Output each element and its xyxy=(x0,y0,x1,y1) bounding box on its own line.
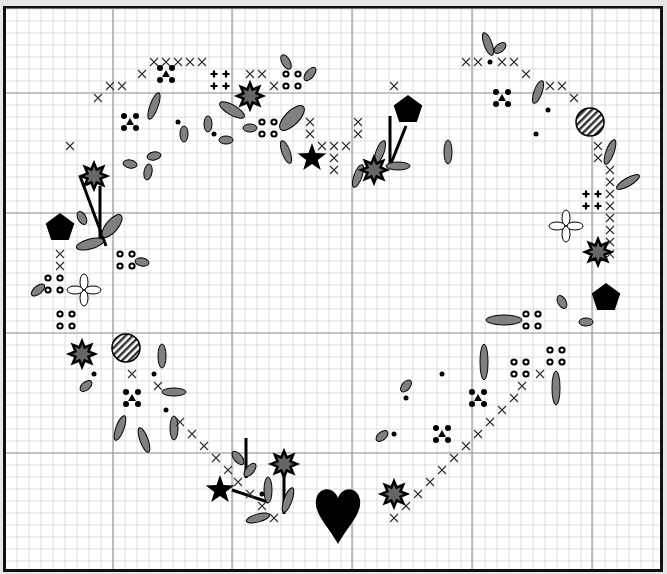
cross-stitch-icon xyxy=(518,382,526,390)
cross-stitch-icon xyxy=(438,466,446,474)
cross-stitch-icon xyxy=(306,118,314,126)
leaf-icon xyxy=(480,344,488,380)
leaf-icon xyxy=(162,388,186,396)
cross-stitch-icon xyxy=(390,82,398,90)
cross-stitch-icon xyxy=(198,58,206,66)
heart-icon xyxy=(316,489,360,544)
leaf-icon xyxy=(243,124,257,132)
dot-icon xyxy=(176,120,181,125)
dot-icon xyxy=(440,372,445,377)
cross-stitch-icon xyxy=(606,226,614,234)
cross-stitch-icon xyxy=(536,370,544,378)
leaf-icon xyxy=(302,65,318,82)
leaf-icon xyxy=(480,31,496,56)
cross-stitch-icon xyxy=(570,94,578,102)
cross-stitch-icon xyxy=(150,58,158,66)
cross-stitch-icon xyxy=(510,58,518,66)
dot-icon xyxy=(546,108,551,113)
leaf-icon xyxy=(98,211,125,240)
striped-circle-icon xyxy=(112,334,140,362)
leaf-icon xyxy=(444,140,452,164)
cross-stitch-icon xyxy=(258,502,266,510)
cross-stitch-icon xyxy=(462,58,470,66)
leaf-icon xyxy=(75,236,105,253)
leaf-icon xyxy=(204,116,212,132)
dot-icon xyxy=(534,132,539,137)
ring-cluster-icon xyxy=(57,311,74,328)
striped-circle-icon xyxy=(576,108,604,136)
cross-stitch-icon xyxy=(474,58,482,66)
burst-icon xyxy=(585,239,611,265)
dot-cluster-icon xyxy=(121,113,139,131)
cross-stitch-icon xyxy=(390,514,398,522)
cross-stitch-icon xyxy=(138,70,146,78)
ring-cluster-icon xyxy=(45,275,62,292)
cross-stitch-icon xyxy=(474,430,482,438)
cross-stitch-icon xyxy=(200,442,208,450)
cross-stitch-icon xyxy=(66,142,74,150)
stem-line xyxy=(390,126,406,166)
burst-icon xyxy=(381,481,407,507)
cross-stitch-icon xyxy=(522,70,530,78)
dot-icon xyxy=(404,396,409,401)
leaf-icon xyxy=(486,315,522,325)
leaf-icon xyxy=(143,163,154,180)
cross-stitch-icon xyxy=(174,58,182,66)
ring-cluster-icon xyxy=(283,71,300,88)
ring-cluster-icon xyxy=(259,119,276,136)
cross-stitch-icon xyxy=(354,118,362,126)
cross-stitch-icon xyxy=(426,478,434,486)
cross-stitch-icon xyxy=(606,190,614,198)
flower-outline-icon xyxy=(67,274,101,306)
dot-icon xyxy=(92,372,97,377)
leaf-icon xyxy=(602,138,618,165)
cross-stitch-icon xyxy=(510,394,518,402)
ring-cluster-icon xyxy=(547,347,564,364)
leaf-icon xyxy=(280,486,296,513)
cross-stitch-icon xyxy=(56,250,64,258)
cross-stitch-pattern-grid xyxy=(0,0,667,574)
leaf-icon xyxy=(136,426,152,453)
cross-stitch-icon xyxy=(330,166,338,174)
dot-icon xyxy=(164,408,169,413)
cross-stitch-icon xyxy=(330,142,338,150)
cross-stitch-icon xyxy=(128,370,136,378)
cross-stitch-icon xyxy=(188,430,196,438)
dot-cluster-icon xyxy=(433,425,451,443)
leaf-icon xyxy=(180,126,188,142)
cross-stitch-icon xyxy=(558,82,566,90)
cross-stitch-icon xyxy=(498,58,506,66)
leaf-icon xyxy=(219,136,233,144)
cross-stitch-icon xyxy=(234,478,242,486)
grid-lines xyxy=(6,9,660,569)
leaf-icon xyxy=(552,371,560,405)
cross-stitch-icon xyxy=(56,262,64,270)
cross-stitch-icon xyxy=(594,142,602,150)
cross-stitch-icon xyxy=(270,82,278,90)
leaf-icon xyxy=(158,344,166,368)
cross-stitch-icon xyxy=(330,154,338,162)
cross-stitch-icon xyxy=(498,406,506,414)
burst-icon xyxy=(361,157,387,183)
leaf-icon xyxy=(530,79,546,104)
star-icon xyxy=(206,475,235,502)
cross-stitch-icon xyxy=(318,142,326,150)
cross-stitch-icon xyxy=(486,418,494,426)
leaf-icon xyxy=(264,477,272,503)
leaf-icon xyxy=(29,282,46,298)
cross-stitch-icon xyxy=(462,442,470,450)
leaf-icon xyxy=(145,91,162,120)
dot-icon xyxy=(392,432,397,437)
cross-stitch-icon xyxy=(414,490,422,498)
cross-stitch-icon xyxy=(546,82,554,90)
dot-cluster-icon xyxy=(123,389,141,407)
leaf-icon xyxy=(386,162,410,170)
pentagon-icon xyxy=(394,95,423,122)
cross-stitch-icon xyxy=(606,178,614,186)
burst-icon xyxy=(237,83,263,109)
cross-stitch-icon xyxy=(306,130,314,138)
burst-icon xyxy=(81,163,107,189)
dot-cluster-icon xyxy=(157,65,175,83)
cross-stitch-icon xyxy=(246,70,254,78)
cross-stitch-icon xyxy=(606,202,614,210)
